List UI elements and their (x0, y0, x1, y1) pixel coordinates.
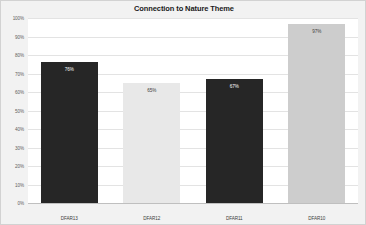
bar[interactable]: 76% (41, 62, 98, 203)
y-axis-tick-label: 20% (15, 164, 24, 169)
bar[interactable]: 97% (288, 24, 345, 203)
y-axis-tick-label: 100% (13, 16, 24, 21)
bar-value-label: 67% (230, 84, 239, 89)
bar-slot: 65% (111, 18, 194, 203)
x-axis-tick-label: DFAR12 (143, 216, 160, 221)
y-axis-tick-label: 50% (15, 108, 24, 113)
bar[interactable]: 67% (206, 79, 263, 203)
y-axis: 100%90%80%70%60%50%40%30%20%10%0% (1, 18, 26, 203)
bar-value-label: 76% (65, 67, 74, 72)
x-axis-tick-label: DFAR11 (226, 216, 242, 221)
x-axis-tick-label: DFAR10 (308, 216, 325, 221)
bar-slot: 97% (276, 18, 359, 203)
gridline (28, 203, 358, 204)
x-axis-tick: DFAR10 (276, 206, 359, 224)
y-axis-tick-label: 10% (15, 182, 24, 187)
y-axis-tick-label: 30% (15, 145, 24, 150)
y-axis-tick-label: 70% (15, 71, 24, 76)
y-axis-tick-label: 90% (15, 34, 24, 39)
x-axis-tick: DFAR13 (28, 206, 111, 224)
bar-series: 76%65%67%97% (28, 18, 358, 203)
x-axis-tick-label: DFAR13 (61, 216, 78, 221)
x-axis: DFAR13DFAR12DFAR11DFAR10 (28, 206, 358, 224)
x-axis-tick: DFAR12 (111, 206, 194, 224)
plot-area: 76%65%67%97% (28, 18, 358, 203)
chart-container: Connection to Nature Theme 100%90%80%70%… (0, 0, 366, 225)
bar-slot: 76% (28, 18, 111, 203)
y-axis-tick-label: 80% (15, 53, 24, 58)
y-axis-tick-label: 0% (18, 201, 24, 206)
bar-slot: 67% (193, 18, 276, 203)
bar-value-label: 65% (147, 88, 156, 93)
y-axis-tick-label: 60% (15, 90, 24, 95)
chart-title: Connection to Nature Theme (1, 4, 366, 13)
bar[interactable]: 65% (123, 83, 180, 203)
x-axis-tick: DFAR11 (193, 206, 276, 224)
bar-value-label: 97% (312, 29, 321, 34)
y-axis-tick-label: 40% (15, 127, 24, 132)
